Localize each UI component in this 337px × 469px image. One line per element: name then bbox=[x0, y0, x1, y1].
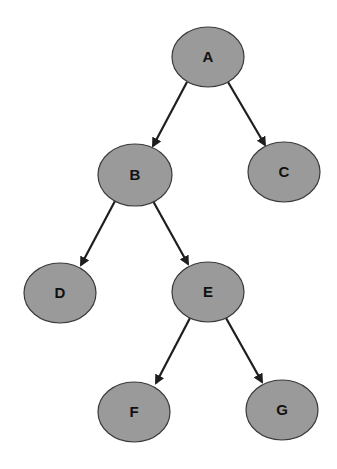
node-a: A bbox=[172, 27, 244, 87]
node-g: G bbox=[246, 380, 318, 440]
node-d: D bbox=[24, 263, 96, 323]
node-label: A bbox=[203, 48, 214, 65]
node-label: G bbox=[276, 401, 288, 418]
node-label: D bbox=[55, 284, 66, 301]
node-b: B bbox=[98, 144, 172, 206]
node-label: E bbox=[203, 283, 213, 300]
node-label: B bbox=[130, 166, 141, 183]
node-label: C bbox=[279, 163, 290, 180]
node-f: F bbox=[98, 382, 170, 442]
node-c: C bbox=[248, 142, 320, 202]
node-label: F bbox=[129, 403, 138, 420]
tree-diagram: ABCDEFG bbox=[0, 0, 337, 469]
node-e: E bbox=[172, 262, 244, 322]
